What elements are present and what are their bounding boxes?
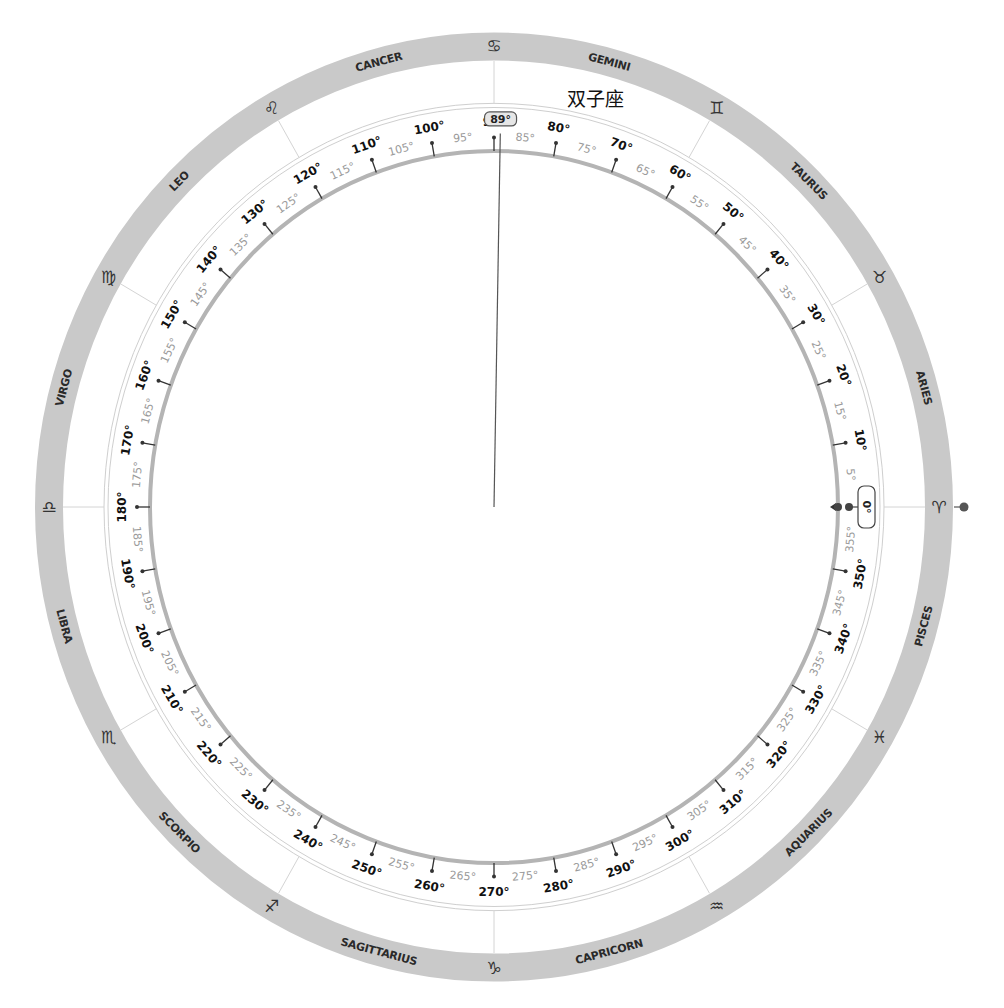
sign-boundary-line [689,857,710,894]
major-degree-label: 100° [413,118,446,137]
tick-dot [219,267,223,271]
major-degree-label: 310° [717,787,750,818]
tick-dot [157,379,161,383]
minor-degree-label: 165° [138,397,157,426]
sign-glyph-cancer-icon: ♋ [486,36,501,56]
minor-degree-label: 265° [449,868,477,883]
minor-degree-label: 55° [688,193,711,215]
minor-degree-label: 115° [328,160,358,183]
tick-dot [157,631,161,635]
sign-glyph-taurus-icon: ♉ [872,267,887,287]
minor-degree-label: 355° [843,526,858,554]
major-degree-label: 270° [478,885,509,899]
major-degree-label: 260° [413,877,446,896]
sign-glyph-sagittarius-icon: ♐ [264,896,279,916]
origin-dot[interactable] [834,503,842,511]
tick-dot [263,788,267,792]
major-degree-label: 30° [804,301,827,328]
major-degree-label: 190° [118,557,137,590]
sign-glyph-libra-icon: ♎ [41,497,56,517]
pointer-needle[interactable] [494,133,500,507]
tick-dot [370,852,374,856]
sign-boundary-line [832,284,868,305]
minor-degree-label: 175° [130,461,145,489]
minor-degree-label: 335° [807,649,830,679]
sign-glyph-capricorn-icon: ♑ [486,958,501,978]
minor-degree-label: 345° [830,588,849,617]
major-tick [316,187,323,199]
degree-scale-arc [150,151,838,863]
outer-drag-handle[interactable] [960,503,969,512]
tick-dot [671,185,675,189]
major-tick [666,815,673,827]
current-sign-label: 双子座 [567,84,624,111]
tick-dot [614,852,618,856]
minor-degree-label: 5° [844,468,858,482]
minor-degree-label: 205° [158,649,181,679]
major-tick [554,143,556,156]
tick-dot [263,222,267,226]
sign-boundary-line [279,121,300,158]
tick-dot [314,185,318,189]
sign-boundary-line [121,709,157,730]
sign-glyph-aries-icon: ♈ [931,497,946,517]
origin-handle-dot[interactable] [845,503,853,511]
major-tick [372,842,376,855]
sign-boundary-line [689,121,710,158]
needle-angle-text: 89° [490,113,511,126]
tick-dot [827,379,831,383]
minor-degree-label: 195° [138,588,157,617]
tick-dot [721,222,725,226]
sign-boundary-line [121,284,157,305]
minor-degree-label: 15° [831,400,849,422]
sign-glyph-scorpio-icon: ♏ [101,727,116,747]
minor-degree-label: 245° [328,831,358,854]
sign-glyph-aquarius-icon: ♒ [709,896,724,916]
tick-dot [140,569,144,573]
tick-dot [765,743,769,747]
major-degree-label: 250° [350,857,384,881]
major-degree-label: 20° [833,362,854,388]
major-degree-label: 10° [851,428,869,453]
sign-glyph-virgo-icon: ♍ [101,267,116,287]
major-tick [372,160,376,173]
tick-dot [492,136,496,140]
tick-dot [314,825,318,829]
sign-boundary-line [832,709,868,730]
major-tick [316,815,323,827]
tick-dot [721,788,725,792]
minor-degree-label: 275° [511,868,539,883]
major-degree-label: 340° [832,622,856,656]
tick-dot [844,569,848,573]
minor-degree-label: 285° [572,855,601,874]
major-degree-label: 180° [115,491,129,522]
minor-degree-label: 255° [387,855,416,874]
tick-dot [183,320,187,324]
tick-dot [219,743,223,747]
tick-dot [801,320,805,324]
major-degree-label: 160° [133,358,157,392]
major-degree-label: 50° [720,199,746,224]
major-degree-label: 350° [851,557,870,590]
minor-degree-label: 295° [631,831,661,854]
major-tick [554,858,556,871]
major-degree-label: 70° [608,135,634,156]
tick-dot [765,267,769,271]
major-degree-label: 40° [766,246,791,272]
minor-degree-label: 75° [576,140,598,158]
major-tick [612,842,616,855]
major-degree-label: 280° [542,877,575,896]
minor-degree-label: 105° [387,139,416,158]
minor-degree-label: 155° [158,336,181,366]
sign-boundary-line [279,857,300,894]
sign-glyph-pisces-icon: ♓ [872,727,887,747]
tick-dot [554,141,558,145]
tick-dot [492,874,496,878]
tick-dot [370,158,374,162]
major-tick [432,858,434,871]
tick-dot [827,631,831,635]
tick-dot [801,690,805,694]
major-degree-label: 80° [546,119,571,137]
origin-angle-text: 0° [860,500,873,513]
major-degree-label: 60° [667,162,694,185]
